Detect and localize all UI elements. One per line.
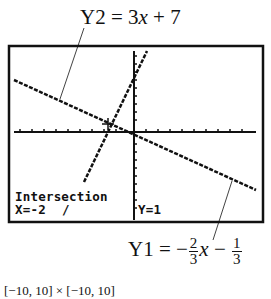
minus-sign: − bbox=[176, 237, 188, 261]
y1-equation-label: Y1 = −23x − 13 bbox=[128, 236, 243, 267]
fraction-two-thirds: 23 bbox=[189, 236, 199, 267]
y1-name: Y1 bbox=[128, 237, 154, 261]
equals-sign: = bbox=[159, 237, 171, 261]
y-value-readout: Y=1 bbox=[138, 203, 161, 216]
viewing-window-caption: [−10, 10] × [−10, 10] bbox=[4, 283, 115, 299]
variable-x: x bbox=[199, 237, 208, 261]
x-value-slash: / bbox=[62, 203, 70, 216]
x-value-readout: X=-2 bbox=[15, 203, 46, 216]
minus-sign: − bbox=[214, 237, 226, 261]
fraction-one-third: 13 bbox=[232, 236, 242, 267]
